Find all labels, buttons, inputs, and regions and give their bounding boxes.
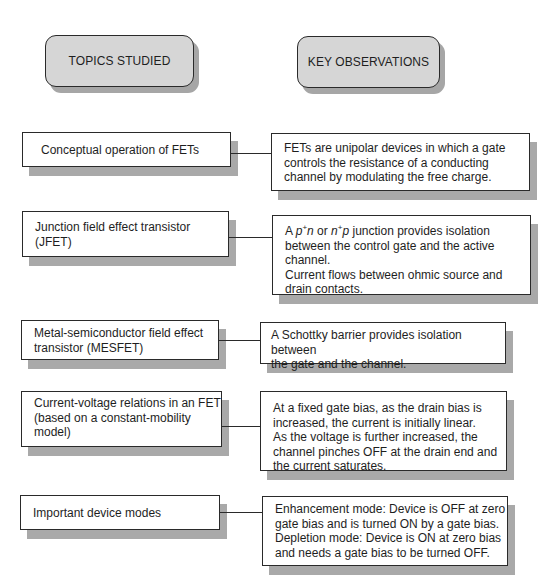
topic-text: Metal-semiconductor field effect transis… xyxy=(34,326,203,355)
topic-text: Junction field effect transistor (JFET) xyxy=(35,220,190,249)
observation-box-jfet: A p+n or n+p junction provides isolation… xyxy=(272,215,531,295)
observation-rest: between the control gate and the active … xyxy=(285,239,502,297)
observation-text: A p+n or n+p junction provides isolation… xyxy=(285,224,502,297)
observation-text: At a fixed gate bias, as the drain bias … xyxy=(273,401,497,474)
topic-text: Important device modes xyxy=(33,506,161,521)
topic-box-mesfet: Metal-semiconductor field effect transis… xyxy=(21,320,219,360)
observation-box-device-modes: Enhancement mode: Device is OFF at zero … xyxy=(262,496,508,566)
topic-box-conceptual-operation: Conceptual operation of FETs xyxy=(22,132,231,167)
topic-text: Conceptual operation of FETs xyxy=(41,143,199,158)
connector-line xyxy=(219,340,260,341)
observation-box-mesfet: A Schottky barrier provides isolation be… xyxy=(260,322,506,364)
observation-text: Enhancement mode: Device is OFF at zero … xyxy=(275,502,505,560)
observation-box-current-voltage: At a fixed gate bias, as the drain bias … xyxy=(260,391,507,471)
topic-text: Current-voltage relations in an FET (bas… xyxy=(34,396,221,440)
topic-box-device-modes: Important device modes xyxy=(20,495,220,530)
key-observations-label: KEY OBSERVATIONS xyxy=(308,55,429,69)
connector-line xyxy=(220,512,262,513)
topics-studied-label: TOPICS STUDIED xyxy=(69,54,171,68)
observation-box-conceptual-operation: FETs are unipolar devices in which a gat… xyxy=(271,133,530,191)
observation-text: A Schottky barrier provides isolation be… xyxy=(271,328,505,372)
topics-studied-header: TOPICS STUDIED xyxy=(45,35,194,87)
observation-line-1: A p+n or n+p junction provides isolation xyxy=(285,224,502,239)
connector-line xyxy=(229,237,272,238)
connector-line xyxy=(222,426,260,427)
connector-line xyxy=(231,153,271,154)
topic-box-current-voltage: Current-voltage relations in an FET (bas… xyxy=(21,391,222,447)
key-observations-header: KEY OBSERVATIONS xyxy=(297,36,440,88)
topic-box-jfet: Junction field effect transistor (JFET) xyxy=(22,211,229,257)
observation-text: FETs are unipolar devices in which a gat… xyxy=(284,141,505,185)
